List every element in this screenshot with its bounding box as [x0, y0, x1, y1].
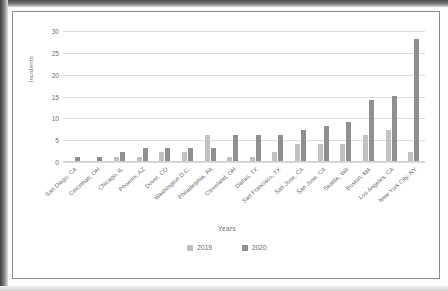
x-axis-tick-labels: San Diego, CACincinnati, OHChicago, ILPh…: [63, 164, 425, 222]
plot-area: 051015202530: [63, 31, 425, 162]
legend-label: 2019: [197, 244, 212, 251]
x-axis-title: Years: [13, 225, 441, 232]
y-tick-label: 10: [52, 115, 59, 122]
bar-group: [402, 31, 425, 161]
scan-edge-left: [0, 0, 8, 291]
bar-2019: [272, 152, 277, 161]
bar-2019: [363, 135, 368, 161]
bar-2020: [233, 135, 238, 161]
y-tick-label: 25: [52, 49, 59, 56]
bar-group: [244, 31, 267, 161]
bar-group: [267, 31, 290, 161]
x-label-slot: San Jose, CA: [312, 164, 335, 222]
bar-2020: [165, 148, 170, 161]
bar-2019: [227, 157, 232, 161]
bar-2020: [369, 100, 374, 161]
y-tick-label: 30: [52, 28, 59, 35]
bar-group: [221, 31, 244, 161]
bar-group: [63, 31, 86, 161]
x-label-slot: Cleveland, OH: [221, 164, 244, 222]
bar-2019: [137, 157, 142, 161]
bar-2020: [97, 157, 102, 161]
gridline-0: 0: [63, 162, 425, 163]
bar-2020: [324, 126, 329, 161]
bar-group: [289, 31, 312, 161]
legend-label: 2020: [252, 244, 267, 251]
chart-plot-wrapper: Incidents 051015202530 San Diego, CACinc…: [13, 12, 441, 280]
bar-2020: [143, 148, 148, 161]
bar-group: [131, 31, 154, 161]
chart-frame: Incidents 051015202530 San Diego, CACinc…: [12, 11, 440, 279]
x-label-slot: Chicago, IL: [108, 164, 131, 222]
y-tick-label: 0: [55, 159, 59, 166]
bar-2020: [392, 96, 397, 162]
x-label-slot: New York City, NY: [402, 164, 425, 222]
x-label-slot: Phoenix, AZ: [131, 164, 154, 222]
axis-baseline: [63, 161, 425, 162]
bar-2020: [346, 122, 351, 161]
bar-2020: [211, 148, 216, 161]
y-tick-label: 20: [52, 71, 59, 78]
scan-edge-bottom: [0, 286, 448, 291]
bar-2019: [295, 144, 300, 161]
x-label-slot: Cincinnati, OH: [86, 164, 109, 222]
bar-group: [176, 31, 199, 161]
bar-group: [154, 31, 177, 161]
legend-swatch-icon: [242, 245, 248, 251]
bar-group: [199, 31, 222, 161]
bar-2019: [318, 144, 323, 161]
scan-edge-top: [0, 0, 448, 7]
bar-2020: [75, 157, 80, 161]
bar-2020: [278, 135, 283, 161]
y-tick-label: 15: [52, 93, 59, 100]
bar-2019: [182, 152, 187, 161]
y-axis-title: Incidents: [27, 69, 34, 83]
y-tick-label: 5: [55, 137, 59, 144]
bar-2019: [250, 157, 255, 161]
legend-swatch-icon: [187, 245, 193, 251]
x-label-slot: Seattle, WA: [335, 164, 358, 222]
bar-group: [108, 31, 131, 161]
bar-group: [380, 31, 403, 161]
bar-2020: [301, 130, 306, 161]
legend-item-2020[interactable]: 2020: [242, 244, 267, 251]
bar-groups: [63, 31, 425, 161]
bar-2019: [408, 152, 413, 161]
chart-legend: 20192020: [13, 244, 441, 251]
bar-2019: [205, 135, 210, 161]
bar-2019: [114, 157, 119, 161]
bar-group: [357, 31, 380, 161]
bar-2019: [340, 144, 345, 161]
bar-2020: [120, 152, 125, 161]
bar-2019: [386, 130, 391, 161]
bar-2020: [414, 39, 419, 161]
bar-group: [335, 31, 358, 161]
bar-2020: [256, 135, 261, 161]
legend-item-2019[interactable]: 2019: [187, 244, 212, 251]
bar-2019: [159, 152, 164, 161]
bar-group: [86, 31, 109, 161]
bar-group: [312, 31, 335, 161]
scanned-page: Incidents 051015202530 San Diego, CACinc…: [0, 0, 448, 291]
bar-2020: [188, 148, 193, 161]
